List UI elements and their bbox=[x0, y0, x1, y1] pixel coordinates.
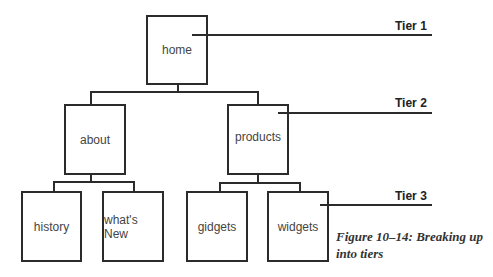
tier3-line bbox=[320, 204, 432, 206]
node-history: history bbox=[21, 191, 82, 262]
node-history-label: history bbox=[34, 220, 69, 234]
tier3-label: Tier 3 bbox=[395, 189, 427, 203]
node-home-label: home bbox=[162, 43, 192, 57]
node-widgets: widgets bbox=[267, 191, 329, 262]
tier1-line bbox=[192, 34, 432, 36]
node-whats-new-label: what's New bbox=[104, 213, 162, 241]
tier2-line bbox=[278, 112, 432, 114]
caption-line-1: Figure 10–14: Breaking up bbox=[336, 228, 486, 245]
node-gidgets: gidgets bbox=[186, 191, 248, 262]
connector-to-products bbox=[257, 91, 259, 105]
figure-caption: Figure 10–14: Breaking up into tiers bbox=[336, 228, 486, 262]
tier2-label: Tier 2 bbox=[395, 96, 427, 110]
tier1-label: Tier 1 bbox=[395, 19, 427, 33]
node-products-label: products bbox=[235, 130, 281, 144]
node-whats-new: what's New bbox=[102, 191, 164, 262]
node-about-label: about bbox=[80, 133, 110, 147]
node-home: home bbox=[146, 15, 208, 85]
connector-about-horizontal bbox=[53, 181, 135, 183]
connector-to-about bbox=[90, 91, 92, 105]
caption-line-2: into tiers bbox=[336, 245, 486, 262]
connector-products-horizontal bbox=[219, 182, 301, 184]
node-products: products bbox=[227, 104, 289, 175]
node-widgets-label: widgets bbox=[278, 220, 319, 234]
connector-tier2-horizontal bbox=[90, 91, 259, 93]
node-gidgets-label: gidgets bbox=[198, 220, 237, 234]
node-about: about bbox=[64, 104, 126, 175]
